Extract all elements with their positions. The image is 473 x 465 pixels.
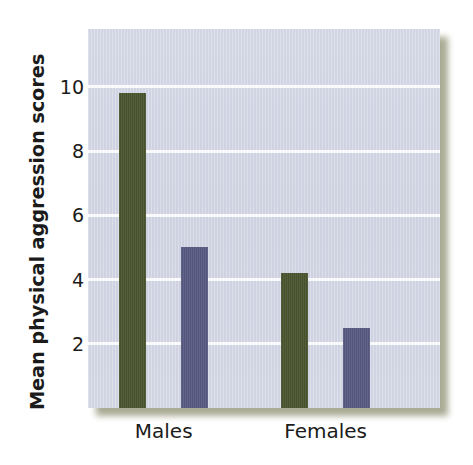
y-tick-label-8: 8: [40, 142, 84, 161]
y-tick-label-4: 4: [40, 270, 84, 289]
y-tick-label-10: 10: [40, 77, 84, 96]
gridline-10: [88, 85, 440, 88]
y-tick-label-6: 6: [40, 206, 84, 225]
x-tick-label-males: Males: [135, 418, 193, 444]
y-tick-label-2: 2: [40, 334, 84, 353]
bar-females-green: [281, 273, 308, 408]
bar-females-purple: [343, 328, 370, 408]
plot-area: [88, 29, 440, 408]
bar-chart-figure: Mean physical aggression scores 10 8 6 4…: [0, 0, 473, 465]
x-axis-tick-labels: Males Females: [88, 418, 440, 452]
y-axis-tick-labels: 10 8 6 4 2: [40, 29, 84, 408]
x-tick-label-females: Females: [284, 418, 367, 444]
bar-males-purple: [181, 247, 208, 408]
bar-males-green: [119, 93, 146, 408]
